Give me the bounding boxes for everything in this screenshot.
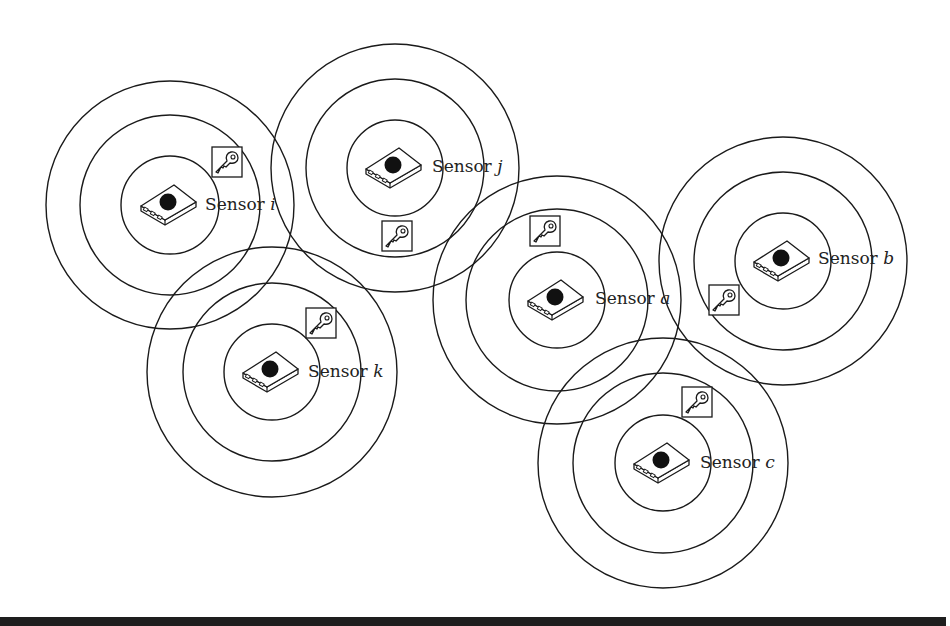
sensor-device-icon — [634, 443, 689, 483]
key-icon — [212, 147, 242, 177]
bottom-rule — [0, 617, 946, 626]
key-icon — [306, 308, 336, 338]
sensor-b-label: Sensor b — [818, 248, 894, 268]
sensor-device-icon — [754, 241, 809, 281]
sensor-device-icon — [141, 185, 196, 225]
sensor-c-label: Sensor c — [700, 452, 775, 472]
sensor-a-label: Sensor a — [595, 288, 670, 308]
key-icon — [709, 285, 739, 315]
sensor-device-icon — [528, 280, 583, 320]
sensor-k-label: Sensor k — [308, 361, 383, 381]
key-icon — [682, 387, 712, 417]
sensor-i-label: Sensor i — [205, 194, 276, 214]
sensor-device-icon — [243, 352, 298, 392]
sensor-j-label: Sensor j — [432, 156, 503, 176]
key-icon — [382, 221, 412, 251]
sensor-network-diagram: Sensor iSensor jSensor aSensor bSensor k… — [0, 0, 950, 626]
sensor-device-icon — [366, 148, 421, 188]
key-icon — [530, 216, 560, 246]
range-rings-layer — [46, 44, 907, 588]
